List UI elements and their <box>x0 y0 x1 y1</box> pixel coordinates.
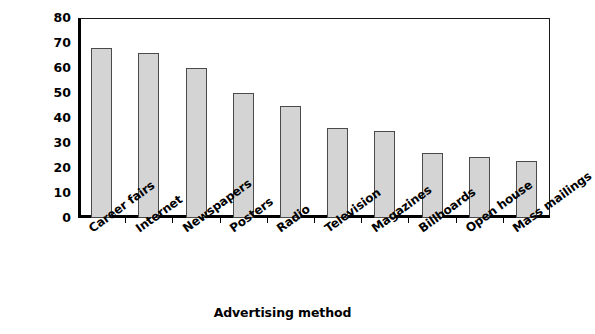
x-tick-mark <box>456 218 457 223</box>
y-tick-label: 10 <box>18 187 78 200</box>
bar <box>91 48 112 218</box>
y-tick-label: 40 <box>18 112 78 125</box>
y-tick-label: 80 <box>18 12 78 25</box>
x-axis-tick-labels: Career fairsInternetNewspapersPostersRad… <box>78 224 550 298</box>
x-tick-mark <box>503 218 504 223</box>
x-axis-title: Advertising method <box>0 305 565 320</box>
y-axis-tick-labels: 01020304050607080 <box>0 18 78 218</box>
x-tick-mark <box>125 218 126 223</box>
y-tick-label: 0 <box>18 212 78 225</box>
x-tick-mark <box>314 218 315 223</box>
bar <box>186 68 207 218</box>
y-tick-label: 60 <box>18 62 78 75</box>
y-tick-label: 70 <box>18 37 78 50</box>
x-tick-mark <box>408 218 409 223</box>
x-tick-mark <box>361 218 362 223</box>
x-tick-mark <box>267 218 268 223</box>
y-tick-label: 30 <box>18 137 78 150</box>
y-tick-label: 20 <box>18 162 78 175</box>
bar <box>374 131 395 219</box>
bar <box>327 128 348 218</box>
y-tick-label: 50 <box>18 87 78 100</box>
x-tick-mark <box>220 218 221 223</box>
bar <box>280 106 301 219</box>
x-tick-mark <box>172 218 173 223</box>
